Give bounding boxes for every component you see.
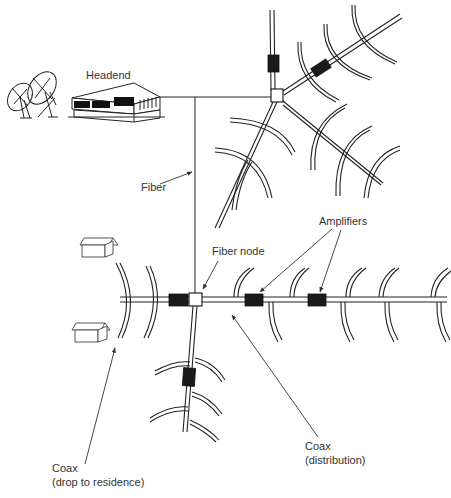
- amplifiers-arrow-1: [260, 229, 332, 292]
- coax-drop-arrow: [85, 348, 115, 464]
- amplifier-icon: [245, 294, 263, 306]
- amplifier-icon: [169, 294, 188, 306]
- amplifiers-arrow-2: [320, 230, 341, 292]
- coax-drop-label-line1: Coax: [52, 462, 78, 474]
- upper-coax-branches: [215, 5, 402, 228]
- fiber-trunk: [160, 97, 271, 293]
- satellite-dish-icon: [2, 66, 62, 118]
- fiber-arrow: [160, 172, 192, 184]
- fiber-node-arrow: [203, 261, 218, 289]
- tap-arcs: [116, 263, 451, 442]
- amplifier-icon: [268, 55, 279, 72]
- amplifier-icon: [308, 294, 326, 306]
- hfc-network-diagram: Headend Fiber: [0, 0, 451, 498]
- coax-distribution-arrow: [232, 315, 318, 437]
- fiber-node-lower: [189, 293, 202, 306]
- house-icon: [72, 323, 110, 342]
- fiber-node-label: Fiber node: [212, 245, 265, 257]
- amplifiers-label: Amplifiers: [319, 215, 368, 227]
- headend-building-icon: [68, 83, 165, 122]
- coax-drop-label-line2: (drop to residence): [52, 476, 144, 488]
- amplifier-icon: [182, 368, 195, 387]
- coax-distribution-label-line1: Coax: [305, 440, 331, 452]
- coax-distribution-label-line2: (distribution): [305, 454, 366, 466]
- headend-label: Headend: [86, 69, 131, 81]
- house-icon: [80, 238, 118, 257]
- fiber-node-upper: [271, 89, 283, 102]
